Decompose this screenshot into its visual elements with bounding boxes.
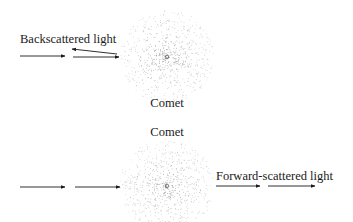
backscattered-light-label: Backscattered light [20,33,116,46]
comet-coma-top [120,11,213,104]
arrow-backscattered [72,49,117,54]
top-arrows [20,49,119,57]
forward-scattered-light-label: Forward-scattered light [216,170,333,183]
bottom-arrows [20,186,315,187]
comet-label-bottom: Comet [150,126,183,139]
comet-label-top: Comet [150,97,183,110]
comet-coma-bottom [120,139,213,222]
